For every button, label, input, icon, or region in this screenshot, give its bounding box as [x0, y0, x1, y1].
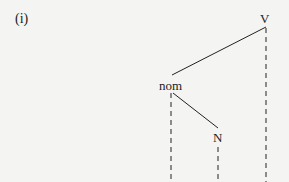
node-v: V [260, 12, 269, 25]
edge-v-nom [172, 27, 266, 75]
node-n: N [213, 131, 222, 144]
tree-edges [0, 0, 289, 182]
node-nom: nom [159, 79, 182, 92]
edge-nom-n [173, 93, 218, 128]
